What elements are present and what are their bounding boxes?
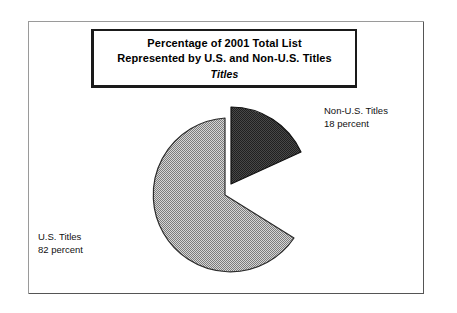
label-us-titles-value: 82 percent <box>38 243 83 256</box>
chart-subtitle: Titles <box>211 67 239 81</box>
label-non-us-titles-name: Non-U.S. Titles <box>324 104 388 117</box>
pie-chart <box>130 98 320 283</box>
figure-screenshot: Percentage of 2001 Total List Represente… <box>0 0 457 313</box>
chart-title-line-1: Percentage of 2001 Total List <box>147 36 301 51</box>
label-us-titles: U.S. Titles 82 percent <box>38 230 83 256</box>
label-non-us-titles: Non-U.S. Titles 18 percent <box>324 104 388 130</box>
pie-chart-svg <box>130 98 320 283</box>
pie-slice-non-us-titles <box>231 107 301 184</box>
label-non-us-titles-value: 18 percent <box>324 117 388 130</box>
chart-title-line-2: Represented by U.S. and Non-U.S. Titles <box>117 51 332 66</box>
label-us-titles-name: U.S. Titles <box>38 230 83 243</box>
chart-title-box: Percentage of 2001 Total List Represente… <box>91 29 357 88</box>
